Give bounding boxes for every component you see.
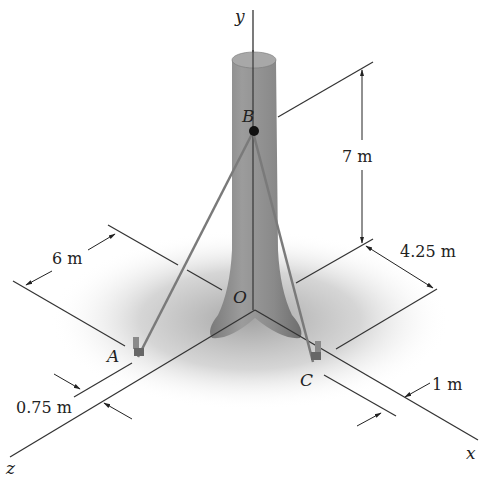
dim-0-75m-right bbox=[104, 403, 132, 419]
point-A-label: A bbox=[105, 346, 119, 366]
point-B-marker bbox=[249, 126, 259, 136]
x-axis-label: x bbox=[466, 443, 476, 463]
dim-1m-lower bbox=[357, 413, 381, 426]
dim-7m-label: 7 m bbox=[342, 147, 372, 166]
dim-6m-left bbox=[26, 271, 52, 285]
tree-guy-wire-diagram: 7 m 4.25 m 6 m 0.75 m 1 m y x z O B A C bbox=[0, 0, 488, 490]
dim-0-75m-left bbox=[54, 374, 80, 389]
dim-0-75m-label: 0.75 m bbox=[16, 398, 72, 417]
dim-1m-upper bbox=[405, 383, 430, 397]
dim-6m-right bbox=[88, 234, 115, 250]
origin-label: O bbox=[233, 287, 247, 307]
point-C-label: C bbox=[300, 370, 313, 390]
dim-6m-label: 6 m bbox=[52, 249, 82, 268]
z-axis-label: z bbox=[5, 458, 16, 478]
dim-1m-label: 1 m bbox=[432, 375, 462, 394]
point-B-label: B bbox=[241, 106, 255, 126]
ext-line-top bbox=[278, 62, 373, 117]
y-axis-label: y bbox=[234, 6, 245, 26]
dim-4-25m-label: 4.25 m bbox=[400, 242, 456, 261]
